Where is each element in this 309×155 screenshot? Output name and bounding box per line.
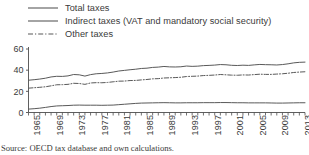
legend-label-total-taxes: Total taxes [65, 3, 109, 13]
x-tick-label: 1981 [122, 115, 132, 135]
x-tick-label: 1989 [167, 115, 177, 135]
chart-legend: Total taxes Indirect taxes (VAT and mand… [28, 2, 303, 41]
x-tick-label: 1965 [32, 115, 42, 135]
legend-item-total-taxes: Total taxes [28, 2, 303, 14]
x-tick-label: 2009 [280, 115, 290, 135]
x-tick-label: 1969 [55, 115, 65, 135]
tax-revenue-line-chart: Total taxes Indirect taxes (VAT and mand… [0, 0, 309, 155]
x-tick-label: 2001 [235, 115, 245, 135]
legend-item-indirect-taxes: Indirect taxes (VAT and mandatory social… [28, 15, 303, 27]
x-tick-label: 2013 [303, 115, 309, 135]
legend-key-dash-dot-icon [28, 29, 58, 39]
chart-canvas: 0204060 [0, 41, 309, 121]
x-tick-label: 1993 [190, 115, 200, 135]
x-tick-label: 1977 [100, 115, 110, 135]
plot-area: 0204060 [0, 41, 309, 121]
y-axis-tick-labels: 0204060 [13, 44, 23, 118]
x-tick-label: 1973 [77, 115, 87, 135]
legend-item-other-taxes: Other taxes [28, 28, 303, 40]
legend-key-solid-icon [28, 16, 58, 26]
x-axis-labels: 1965196919731977198119851989199319972001… [0, 113, 309, 143]
y-tick-label: 40 [13, 65, 23, 75]
legend-key-solid-icon [28, 3, 58, 13]
legend-label-other-taxes: Other taxes [65, 29, 113, 39]
legend-label-indirect-taxes: Indirect taxes (VAT and mandatory social… [65, 16, 271, 26]
data-series-group [29, 62, 306, 109]
x-tick-label: 1997 [213, 115, 223, 135]
x-tick-label: 2005 [258, 115, 268, 135]
series-line-2 [29, 72, 306, 88]
series-line-3 [29, 103, 306, 110]
y-tick-label: 20 [13, 87, 23, 97]
y-tick-label: 60 [13, 44, 23, 54]
source-note: Source: OECD tax database and own calcul… [1, 143, 174, 153]
x-tick-label: 1985 [145, 115, 155, 135]
